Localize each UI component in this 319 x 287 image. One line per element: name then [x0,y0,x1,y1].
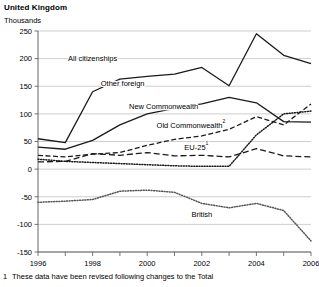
footnote: 1These data have been revised following … [3,272,213,281]
x-axis-tick-label: 1996 [30,259,47,268]
y-axis-tick-label: -50 [21,193,32,202]
footnote-marker: 1 [3,272,12,281]
series-label-old-commonwealth: Old Commonwealth2 [157,118,226,131]
footnote-text: These data have been revised following c… [12,272,213,281]
y-axis-tick-label: 50 [24,137,32,146]
series-line-british [38,190,311,241]
series-label-british: British [191,210,212,219]
y-axis-tick-label: 150 [19,82,32,91]
y-axis-tick-label: 0 [28,165,32,174]
y-axis-tick-label: -100 [17,220,32,229]
x-axis-tick-label: 2006 [303,259,319,268]
y-axis-tick-label: -150 [17,248,32,257]
y-axis-tick-label: 100 [19,110,32,119]
series-label-all-citizenships: All citizenships [68,54,117,63]
series-label-new-commonwealth: New Commonwealth [129,102,198,111]
y-axis-tick-label: 250 [19,27,32,36]
x-axis-tick-label: 2000 [139,259,156,268]
y-axis-tick-label: 200 [19,54,32,63]
x-axis-tick-label: 2002 [193,259,210,268]
line-chart-plot: 250200150100500-50-100-15019961998200020… [0,0,319,287]
series-label-other-foreign: Other foreign [101,79,145,88]
x-axis-tick-label: 2004 [248,259,265,268]
chart-container: United Kingdom Thousands 250200150100500… [0,0,319,287]
x-axis-tick-label: 1998 [84,259,101,268]
